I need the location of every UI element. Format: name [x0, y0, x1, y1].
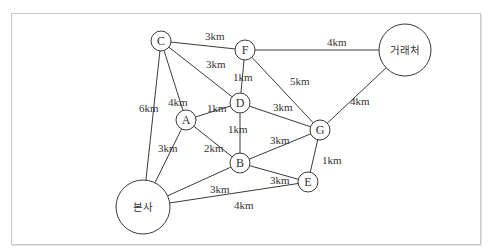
edge-distance-label: 3km — [270, 174, 290, 186]
edge-C-hq — [146, 51, 160, 180]
node-D: D — [230, 93, 250, 113]
edge-distance-label: 3km — [158, 142, 178, 154]
node-E: E — [298, 172, 318, 192]
edge-distance-label: 5km — [290, 75, 310, 87]
edge-distance-label: 1km — [207, 102, 227, 114]
edge-C-D — [169, 47, 232, 97]
node-A: A — [176, 110, 196, 130]
node-label: E — [304, 175, 311, 189]
edge-distance-label: 4km — [350, 95, 370, 107]
node-B: B — [230, 153, 250, 173]
node-label: 거래처 — [390, 44, 420, 56]
node-F: F — [235, 40, 255, 60]
edge-distance-label: 1km — [228, 123, 248, 135]
edge-G-E — [310, 140, 318, 173]
node-label: G — [316, 123, 325, 137]
node-hq: 본사 — [116, 180, 170, 234]
edge-distance-label: 3km — [273, 101, 293, 113]
edge-C-F — [171, 42, 235, 49]
node-label: C — [157, 34, 165, 48]
node-label: B — [236, 156, 244, 170]
edge-distance-label: 1km — [233, 71, 253, 83]
edge-distance-label: 3km — [210, 183, 230, 195]
edge-distance-label: 6km — [139, 102, 159, 114]
nodes-layer: CF거래처DAGBE본사 — [116, 24, 431, 234]
edge-A-hq — [155, 129, 182, 183]
node-C: C — [151, 31, 171, 51]
node-label: D — [236, 96, 245, 110]
edge-distance-label: 4km — [168, 96, 188, 108]
node-label: A — [182, 113, 191, 127]
node-label: F — [242, 43, 249, 57]
edge-distance-label: 3km — [270, 134, 290, 146]
edge-distance-label: 2km — [204, 142, 224, 154]
node-client: 거래처 — [379, 24, 431, 76]
node-label: 본사 — [133, 201, 153, 213]
node-G: G — [310, 120, 330, 140]
network-graph: 3km4km3km1km5km4km6km1km3km4km1km3km2km3… — [0, 0, 492, 251]
edge-distance-label: 4km — [234, 199, 254, 211]
edge-labels-layer: 3km4km3km1km5km4km6km1km3km4km1km3km2km3… — [139, 30, 370, 211]
edge-distance-label: 3km — [205, 30, 225, 42]
edge-distance-label: 1km — [322, 154, 342, 166]
edge-distance-label: 4km — [327, 36, 347, 48]
edge-distance-label: 3km — [206, 58, 226, 70]
